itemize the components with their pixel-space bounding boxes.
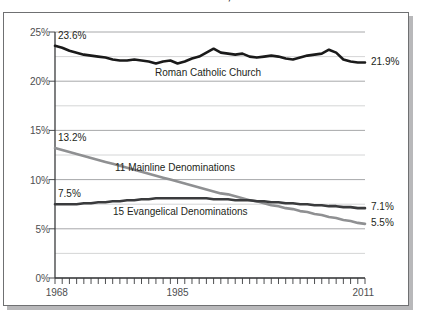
series-start-value-0: 23.6% xyxy=(58,30,86,41)
chart-title: Catholic Church, 1968–2011 xyxy=(46,0,386,2)
series-end-value-0: 21.9% xyxy=(371,56,399,67)
x-axis-tick-label: 2011 xyxy=(353,287,375,298)
y-axis-tick-label: 5% xyxy=(36,223,50,234)
series-line-0 xyxy=(55,46,365,64)
y-axis-tick-labels: 0%5%10%15%20%25% xyxy=(14,32,50,278)
x-axis-tick-label: 1985 xyxy=(166,287,188,298)
series-start-value-2: 7.5% xyxy=(58,188,81,199)
series-start-value-1: 13.2% xyxy=(58,132,86,143)
y-axis-tick-label: 20% xyxy=(30,76,50,87)
x-axis-tick-labels: 196819852011 xyxy=(55,287,365,301)
x-axis-tick-label: 1968 xyxy=(46,287,68,298)
y-axis-tick-label: 10% xyxy=(30,174,50,185)
y-axis-tick-label: 15% xyxy=(30,125,50,136)
y-axis-tick-label: 25% xyxy=(30,27,50,38)
chart-card: Catholic Church, 1968–2011 0%5%10%15%20%… xyxy=(0,0,425,318)
series-label-1: 11 Mainline Denominations xyxy=(115,162,235,173)
plot-area: Roman Catholic Church11 Mainline Denomin… xyxy=(55,32,365,278)
series-end-value-2: 7.1% xyxy=(371,201,394,212)
series-label-2: 15 Evangelical Denominations xyxy=(113,206,248,217)
y-axis-tick-label: 0% xyxy=(36,273,50,284)
series-label-0: Roman Catholic Church xyxy=(155,67,261,78)
series-end-value-1: 5.5% xyxy=(371,217,394,228)
